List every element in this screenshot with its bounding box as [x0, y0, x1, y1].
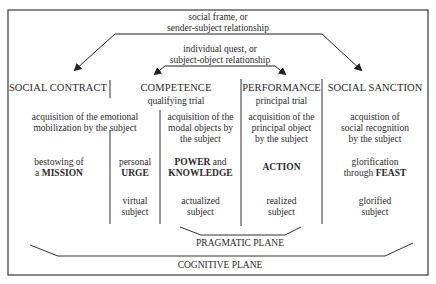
acquisition-competence: acquisition of the modal objects by the … — [160, 112, 241, 145]
subject-actualized: actualized subject — [160, 196, 241, 218]
content-action: ACTION — [241, 162, 322, 173]
content-line: POWER and — [160, 157, 241, 168]
content-line: through FEAST — [322, 168, 428, 179]
content-bold: KNOWLEDGE — [160, 168, 241, 179]
acquisition-performance: acquisition of the principal object by t… — [241, 112, 322, 145]
subject-line: subject — [322, 207, 428, 218]
individual-quest-label: individual quest, or subject-object rela… — [150, 44, 290, 66]
subject-line: realized — [241, 196, 322, 207]
subject-realized: realized subject — [241, 196, 322, 218]
content-line: bestowing of — [8, 157, 110, 168]
acq-line: acquisition of the — [160, 112, 241, 123]
acq-line: the subject — [160, 134, 241, 145]
acquisition-social-sanction: acquistion of social recognition by the … — [322, 112, 428, 145]
social-frame-label: social frame, or sender-subject relation… — [148, 12, 288, 34]
acq-line: by the subject — [322, 134, 428, 145]
individual-quest-line2: subject-object relationship — [150, 55, 290, 66]
content-text: a — [35, 168, 39, 178]
content-line: personal — [110, 157, 160, 168]
heading-performance: PERFORMANCE — [241, 82, 322, 93]
subheading-qualifying-trial: qualifying trial — [112, 96, 240, 107]
heading-social-sanction: SOCIAL SANCTION — [322, 82, 428, 93]
content-text: through — [344, 168, 374, 178]
content-bold: URGE — [110, 168, 160, 179]
content-mission: bestowing of a MISSION — [8, 157, 110, 179]
content-urge: personal URGE — [110, 157, 160, 179]
subject-line: glorified — [322, 196, 428, 207]
acq-line: by the subject — [241, 134, 322, 145]
acq-line: acquistion of — [322, 112, 428, 123]
social-frame-line2: sender-subject relationship — [148, 23, 288, 34]
pragmatic-plane-label: PRAGMATIC PLANE — [160, 238, 320, 249]
subheading-principal-trial: principal trial — [241, 96, 322, 107]
acq-line: modal objects by — [160, 123, 241, 134]
content-bold: ACTION — [241, 162, 322, 173]
acq-line: principal object — [241, 123, 322, 134]
social-frame-line1: social frame, or — [148, 12, 288, 23]
content-line: glorification — [322, 157, 428, 168]
acq-line: acquisition of the emotional — [14, 112, 156, 123]
content-feast: glorification through FEAST — [322, 157, 428, 179]
acq-line: mobilization by the subject — [14, 123, 156, 134]
pragmatic-plane-bracket — [180, 227, 301, 235]
content-text: and — [210, 157, 226, 167]
subject-line: subject — [160, 207, 241, 218]
content-bold: MISSION — [42, 168, 83, 178]
heading-social-contract: SOCIAL CONTRACT — [8, 82, 108, 93]
content-bold: FEAST — [376, 168, 407, 178]
subject-glorified: glorified subject — [322, 196, 428, 218]
subject-line: actualized — [160, 196, 241, 207]
content-line: a MISSION — [8, 168, 110, 179]
acquisition-social-contract: acquisition of the emotional mobilizatio… — [14, 112, 156, 134]
subject-line: subject — [241, 207, 322, 218]
content-power-knowledge: POWER and KNOWLEDGE — [160, 157, 241, 179]
heading-competence: COMPETENCE — [112, 82, 240, 93]
cognitive-plane-label: COGNITIVE PLANE — [140, 260, 300, 271]
acq-line: acquisition of the — [241, 112, 322, 123]
acq-line: social recognition — [322, 123, 428, 134]
content-bold: POWER — [175, 157, 211, 167]
individual-quest-line1: individual quest, or — [150, 44, 290, 55]
subject-line: virtual — [110, 196, 160, 207]
subject-virtual: virtual subject — [110, 196, 160, 218]
subject-line: subject — [110, 207, 160, 218]
